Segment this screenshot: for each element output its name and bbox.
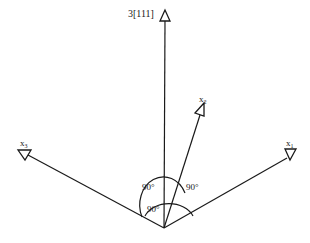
axis-x2-label: x2 xyxy=(199,94,207,105)
angle-label-upper-right: 90° xyxy=(186,182,199,192)
axis-111-line xyxy=(164,21,165,228)
axis-111-arrowhead-icon xyxy=(160,10,170,21)
axis-x3-label: x3 xyxy=(20,138,28,149)
angle-label-upper-left: 90° xyxy=(142,182,155,192)
axis-x1-label: x1 xyxy=(286,138,294,149)
axes-diagram: 3[111] x2 x3 x1 90° 90° 90° xyxy=(0,0,310,243)
axis-111-label: 3[111] xyxy=(128,8,154,19)
angle-label-lower: 90° xyxy=(147,204,160,214)
